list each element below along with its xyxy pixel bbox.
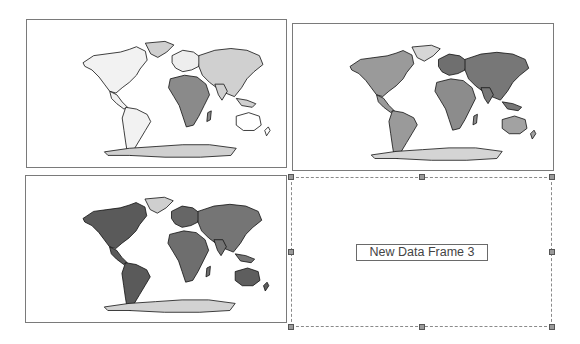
resize-handle-nw[interactable] (288, 174, 294, 180)
resize-handle-se[interactable] (549, 324, 555, 330)
resize-handle-sw[interactable] (288, 324, 294, 330)
data-frame-1[interactable] (26, 19, 287, 168)
data-frame-3[interactable] (25, 175, 287, 323)
data-frame-2[interactable] (292, 23, 554, 171)
resize-handle-ne[interactable] (549, 174, 555, 180)
resize-handle-s[interactable] (419, 324, 425, 330)
new-data-frame-selected[interactable]: New Data Frame 3 (291, 177, 552, 327)
world-map-2 (293, 24, 553, 170)
resize-handle-n[interactable] (419, 174, 425, 180)
frame-label: New Data Frame 3 (356, 244, 488, 261)
resize-handle-w[interactable] (288, 249, 294, 255)
world-map-1 (27, 20, 286, 167)
world-map-3 (26, 176, 286, 322)
resize-handle-e[interactable] (549, 249, 555, 255)
